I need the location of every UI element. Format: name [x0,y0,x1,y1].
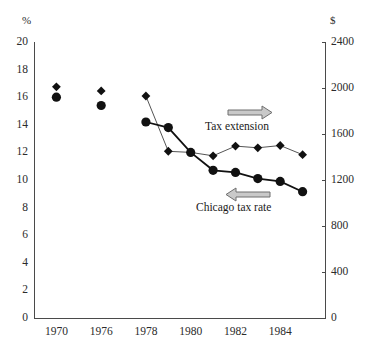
data-point-diamond [298,150,307,159]
data-point-circle [231,168,240,177]
data-point-diamond [209,151,218,160]
chart-container: % $ 02468101214161820 040080012001600200… [0,0,368,360]
data-point-circle [276,177,285,186]
plot-area [0,0,368,360]
data-point-circle [186,148,195,157]
data-point-circle [298,187,307,196]
data-point-circle [52,93,61,102]
data-point-circle [141,117,150,126]
data-point-diamond [142,92,151,101]
data-point-diamond [97,87,106,96]
data-point-diamond [164,147,173,156]
data-point-circle [253,174,262,183]
data-point-diamond [52,82,61,91]
data-point-diamond [253,143,262,152]
data-point-circle [97,101,106,110]
data-point-diamond [276,141,285,150]
chicago-tax-rate-annotation-label: Chicago tax rate [196,201,271,213]
data-point-diamond [231,142,240,151]
chicago-tax-rate-arrow-icon [226,188,270,201]
tax-extension-arrow-icon [228,106,272,119]
tax-extension-annotation-label: Tax extension [205,120,269,132]
data-point-circle [164,123,173,132]
data-point-circle [209,166,218,175]
